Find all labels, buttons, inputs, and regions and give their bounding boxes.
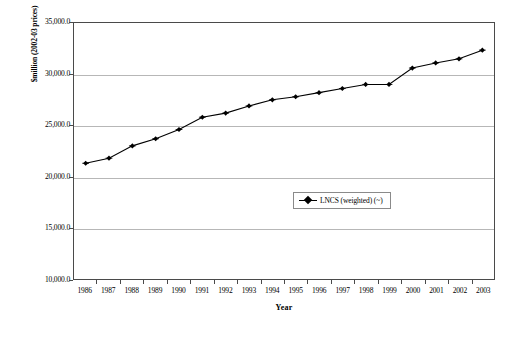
chart-container: $million (2002-03 prices) 35,000.030,000… [0, 0, 520, 341]
chart-legend: LNCS (weighted) (~) [293, 192, 391, 209]
x-axis-tick-mark [331, 280, 332, 284]
x-axis-tick-mark [143, 280, 144, 284]
x-axis-tick-mark [307, 280, 308, 284]
y-axis-tick-label: 35,000.0 [22, 18, 70, 26]
x-axis-tick-mark [214, 280, 215, 284]
x-axis-title: Year [73, 303, 495, 312]
x-axis-tick-mark [472, 280, 473, 284]
legend-label-lncs-weighted: LNCS (weighted) (~) [320, 196, 383, 205]
data-point-marker [316, 90, 323, 95]
legend-marker-icon [299, 196, 317, 205]
x-axis-tick-mark [284, 280, 285, 284]
data-point-marker [269, 97, 276, 102]
x-axis-tick-mark [448, 280, 449, 284]
y-axis-tick-label: 25,000.0 [22, 121, 70, 129]
x-axis-tick-mark [167, 280, 168, 284]
y-axis-tick-label: 20,000.0 [22, 173, 70, 181]
x-axis-tick-mark [261, 280, 262, 284]
data-point-marker [432, 60, 439, 65]
x-axis-tick-mark [237, 280, 238, 284]
series-line-lncs-weighted [74, 23, 494, 279]
x-axis-tick-mark [190, 280, 191, 284]
data-point-marker [456, 56, 463, 61]
data-point-marker [152, 136, 159, 141]
data-point-marker [292, 94, 299, 99]
y-axis-tick-label: 15,000.0 [22, 224, 70, 232]
x-axis-tick-mark [378, 280, 379, 284]
data-point-marker [82, 161, 89, 166]
x-axis-tick-label: 2003 [463, 286, 503, 296]
y-axis-tick-mark [69, 280, 73, 281]
data-point-marker [479, 48, 486, 53]
x-axis-tick-mark [425, 280, 426, 284]
data-point-marker [246, 103, 253, 108]
y-axis-tick-label: 30,000.0 [22, 70, 70, 78]
x-axis-tick-mark [354, 280, 355, 284]
y-axis-tick-label: 10,000.0 [22, 276, 70, 284]
data-point-marker [362, 82, 369, 87]
plot-area [73, 22, 495, 280]
x-axis-tick-mark [96, 280, 97, 284]
x-axis-tick-labels: 1986198719881989199019911992199319941995… [0, 286, 520, 300]
data-point-marker [339, 86, 346, 91]
data-point-marker [222, 111, 229, 116]
series-line [86, 50, 483, 163]
x-axis-tick-mark [120, 280, 121, 284]
x-axis-tick-mark [401, 280, 402, 284]
